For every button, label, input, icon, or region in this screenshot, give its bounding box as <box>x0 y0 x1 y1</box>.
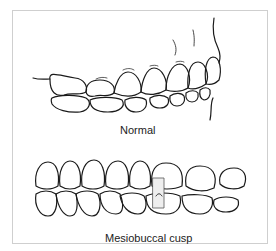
caption-mesiobuccal-cusp: Mesiobuccal cusp <box>105 232 192 244</box>
caption-normal: Normal <box>120 124 155 136</box>
mesiobuccal-cusp-illustration <box>36 160 246 216</box>
normal-occlusion-illustration <box>33 18 220 120</box>
